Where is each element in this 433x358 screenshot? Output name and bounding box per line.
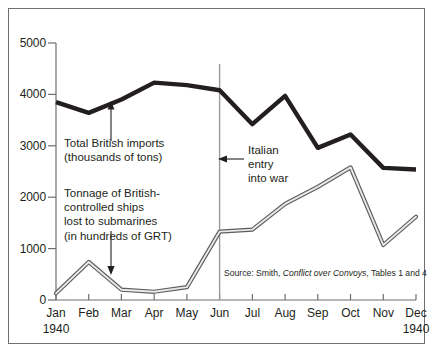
y-tick-label-3000: 3000 bbox=[8, 139, 46, 153]
source-title: Conflict over Convoys bbox=[283, 268, 367, 278]
x-tick-label-dec: Dec bbox=[396, 306, 433, 320]
italian-entry-annotation-arrow bbox=[218, 156, 244, 163]
source-prefix: Source: Smith, bbox=[224, 268, 283, 278]
y-tick-label-5000: 5000 bbox=[8, 36, 46, 50]
y-tick-label-4000: 4000 bbox=[8, 87, 46, 101]
y-tick-label-2000: 2000 bbox=[8, 190, 46, 204]
x-tick-marks bbox=[56, 294, 416, 300]
source-note: Source: Smith, Conflict over Convoys, Ta… bbox=[224, 268, 427, 278]
y-tick-label-1000: 1000 bbox=[8, 242, 46, 256]
losses-annotation-label: Tonnage of British- controlled ships los… bbox=[64, 186, 172, 243]
x-axis-year-start: 1940 bbox=[36, 322, 76, 336]
italian-entry-annotation-label: Italian entry into war bbox=[248, 143, 288, 186]
chart-figure: 5000 4000 3000 2000 1000 0 Jan Feb Mar A… bbox=[0, 0, 433, 358]
x-axis-year-end: 1940 bbox=[396, 322, 433, 336]
imports-annotation-arrow bbox=[108, 101, 115, 141]
y-tick-label-0: 0 bbox=[8, 293, 46, 307]
chart-plot-area bbox=[0, 0, 433, 358]
y-tick-marks bbox=[48, 43, 56, 300]
source-suffix: , Tables 1 and 4 bbox=[366, 268, 427, 278]
imports-annotation-label: Total British imports (thousands of tons… bbox=[64, 136, 164, 164]
